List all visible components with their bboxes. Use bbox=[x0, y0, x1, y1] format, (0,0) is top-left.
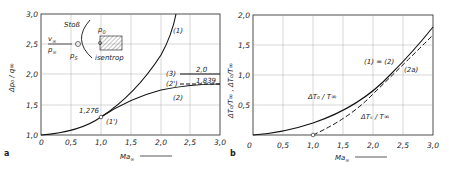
svg-text:2,0: 2,0 bbox=[155, 138, 167, 147]
label-1eq2: (1) = (2) bbox=[364, 58, 394, 66]
grid-b bbox=[253, 15, 433, 135]
svg-text:Ma∞: Ma∞ bbox=[335, 154, 350, 163]
chart-a: 00,51,0 1,52,02,53,0 1,01,52,0 2,53,0 1,… bbox=[4, 10, 226, 162]
label-3: (3) bbox=[166, 70, 176, 78]
svg-text:1,5: 1,5 bbox=[125, 138, 137, 147]
svg-text:0: 0 bbox=[39, 138, 44, 147]
label-T0: ΔT₀ / T∞ bbox=[307, 93, 337, 101]
svg-text:0,5: 0,5 bbox=[238, 101, 250, 110]
svg-text:2,0: 2,0 bbox=[26, 70, 38, 79]
inset-diagram: Stoß isentrop p0 pS v∞ p∞ bbox=[47, 20, 124, 62]
y-ticks-a: 1,01,52,0 2,53,0 bbox=[26, 10, 38, 140]
svg-text:v∞: v∞ bbox=[48, 35, 56, 44]
y-ticks-b: 0,51,01,52,0 bbox=[238, 11, 250, 110]
x-ticks-b: 00,51,0 1,52,02,53,0 bbox=[247, 141, 439, 150]
panel-b-label: b bbox=[230, 149, 236, 158]
chart-figure: 00,51,0 1,52,02,53,0 1,01,52,0 2,53,0 1,… bbox=[0, 0, 449, 170]
curve-1 bbox=[41, 14, 176, 135]
svg-text:1,5: 1,5 bbox=[238, 41, 250, 50]
svg-text:2,5: 2,5 bbox=[184, 138, 196, 147]
label-1839: 1,839 bbox=[196, 77, 217, 85]
marker-1276 bbox=[99, 115, 103, 119]
svg-text:2,0: 2,0 bbox=[238, 11, 250, 20]
label-1276: 1,276 bbox=[79, 107, 100, 115]
svg-text:1,0: 1,0 bbox=[238, 71, 250, 80]
svg-text:Stoß: Stoß bbox=[64, 21, 80, 29]
svg-text:Ma∞: Ma∞ bbox=[120, 153, 135, 162]
svg-text:1,0: 1,0 bbox=[307, 141, 319, 150]
svg-text:2,0: 2,0 bbox=[367, 141, 379, 150]
svg-text:3,0: 3,0 bbox=[26, 10, 38, 19]
label-2p: (2') bbox=[166, 80, 178, 88]
svg-text:2,5: 2,5 bbox=[397, 141, 409, 150]
label-1p: (1') bbox=[106, 118, 118, 126]
svg-text:1,5: 1,5 bbox=[26, 101, 38, 110]
svg-text:3,0: 3,0 bbox=[427, 141, 439, 150]
y-label-b: ΔT₀/T∞ , ΔT₀/T∞ bbox=[227, 62, 235, 119]
svg-text:pS: pS bbox=[69, 52, 78, 61]
y-label-a: Δp₀ / q∞ bbox=[8, 63, 16, 93]
svg-text:0,5: 0,5 bbox=[277, 141, 289, 150]
label-TS: ΔTₛ / T∞ bbox=[360, 113, 390, 121]
label-1: (1) bbox=[173, 27, 183, 35]
svg-text:p∞: p∞ bbox=[47, 46, 57, 55]
svg-text:1,0: 1,0 bbox=[26, 131, 38, 140]
svg-text:1,0: 1,0 bbox=[95, 138, 107, 147]
svg-text:1,5: 1,5 bbox=[337, 141, 349, 150]
svg-text:3,0: 3,0 bbox=[214, 138, 226, 147]
svg-text:0: 0 bbox=[247, 141, 252, 150]
chart-b: 00,51,0 1,52,02,53,0 0,51,01,52,0 (1) = … bbox=[227, 11, 439, 163]
svg-text:isentrop: isentrop bbox=[95, 54, 124, 62]
svg-text:0,5: 0,5 bbox=[65, 138, 77, 147]
panel-a-label: a bbox=[4, 149, 9, 158]
label-20: 2,0 bbox=[196, 66, 208, 74]
curve-2 bbox=[101, 84, 220, 117]
label-2: (2) bbox=[173, 94, 183, 102]
svg-text:p0: p0 bbox=[97, 26, 106, 35]
x-ticks-a: 00,51,0 1,52,02,53,0 bbox=[39, 138, 226, 147]
svg-text:2,5: 2,5 bbox=[26, 40, 38, 49]
label-2a: (2a) bbox=[404, 66, 418, 74]
